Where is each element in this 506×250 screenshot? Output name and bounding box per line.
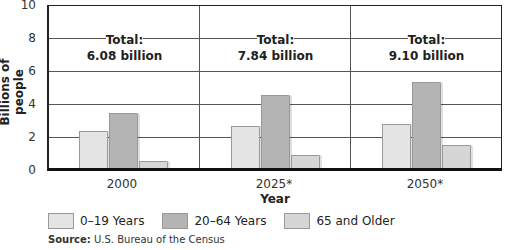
legend-item-65-older: 65 and Older — [284, 213, 394, 229]
legend-swatch-20-64 — [162, 213, 188, 229]
total-value: 6.08 billion — [87, 48, 163, 64]
legend-swatch-0-19 — [48, 213, 74, 229]
bar-2050-series-1 — [412, 82, 441, 168]
total-label: Total: — [257, 32, 295, 48]
divider-1 — [199, 6, 200, 168]
total-annotation-2000: Total: 6.08 billion — [49, 32, 200, 64]
x-axis-label: Year — [225, 192, 325, 206]
bar-2050-series-0 — [382, 124, 411, 168]
legend: 0–19 Years 20–64 Years 65 and Older — [48, 213, 413, 229]
source-label: Source: — [48, 234, 91, 245]
y-tick-2: 2 — [14, 130, 36, 144]
legend-item-20-64: 20–64 Years — [162, 213, 266, 229]
y-axis-label: Billions of people — [0, 42, 26, 142]
plot-area: Total: 6.08 billion Total: 7.84 billion … — [47, 5, 502, 171]
y-tick-8: 8 — [14, 31, 36, 45]
legend-label: 20–64 Years — [194, 214, 266, 228]
x-tick-2050: 2050* — [375, 177, 475, 191]
x-tick-2025: 2025* — [224, 177, 324, 191]
bar-2025-series-1 — [261, 95, 290, 168]
total-label: Total: — [106, 32, 144, 48]
total-annotation-2050: Total: 9.10 billion — [351, 32, 502, 64]
legend-label: 65 and Older — [316, 214, 394, 228]
y-tick-4: 4 — [14, 97, 36, 111]
bar-2000-series-2 — [139, 161, 168, 168]
total-annotation-2025: Total: 7.84 billion — [200, 32, 351, 64]
gridline-6 — [49, 71, 501, 72]
divider-2 — [350, 6, 351, 168]
y-tick-6: 6 — [14, 64, 36, 78]
total-value: 7.84 billion — [238, 48, 314, 64]
source-text: U.S. Bureau of the Census — [91, 234, 225, 245]
bar-2050-series-2 — [442, 145, 471, 168]
legend-swatch-65-older — [284, 213, 310, 229]
bar-2025-series-2 — [291, 155, 320, 168]
total-value: 9.10 billion — [389, 48, 465, 64]
bar-2025-series-0 — [231, 126, 260, 168]
source-note: Source: U.S. Bureau of the Census — [48, 234, 225, 245]
legend-label: 0–19 Years — [80, 214, 144, 228]
y-tick-0: 0 — [14, 163, 36, 177]
total-label: Total: — [408, 32, 446, 48]
legend-item-0-19: 0–19 Years — [48, 213, 144, 229]
y-tick-10: 10 — [14, 0, 36, 12]
bar-2000-series-0 — [79, 131, 108, 168]
x-tick-2000: 2000 — [72, 177, 172, 191]
bar-2000-series-1 — [109, 113, 138, 168]
